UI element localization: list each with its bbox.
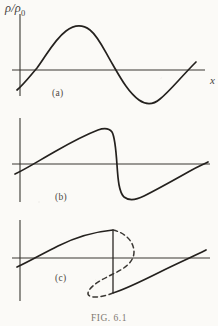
figure-caption: FIG. 6.1 — [0, 313, 218, 326]
panel-a-caption: (a) — [52, 88, 63, 98]
panel-c-lower-branch — [113, 250, 206, 293]
panel-c-plot — [0, 215, 218, 310]
panel-b-caption: (b) — [55, 192, 67, 202]
figure-container: ρ/ρ0 x (a) (b) (c) FIG. 6.1 — [0, 0, 218, 326]
y-axis-label: ρ/ρ0 — [5, 1, 26, 18]
panel-a: ρ/ρ0 x (a) — [0, 0, 218, 110]
panel-a-plot — [0, 0, 218, 110]
panel-b-plot — [0, 110, 218, 215]
x-axis-label: x — [210, 74, 215, 86]
panel-c-upper-branch — [17, 230, 113, 267]
panel-a-curve — [17, 26, 196, 104]
panel-c: (c) — [0, 215, 218, 310]
panel-c-caption: (c) — [55, 273, 66, 283]
panel-b: (b) — [0, 110, 218, 215]
